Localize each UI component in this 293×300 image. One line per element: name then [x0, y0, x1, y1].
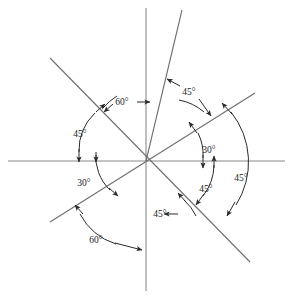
label-60-bottom: 60° — [89, 235, 103, 245]
annotation-60-bottom: 60° — [75, 205, 142, 250]
label-75-right: 45° — [234, 173, 248, 183]
ray-30-through-center — [50, 93, 255, 222]
annotation-60-upper: 60° — [103, 96, 150, 112]
annotation-75-right: 45° — [222, 103, 249, 216]
angle-diagram-svg: 60° 45° 30° 45° 45° 45° 30 — [0, 0, 293, 300]
figure-canvas: 60° 45° 30° 45° 45° 45° 30 — [0, 0, 293, 300]
annotation-45-upper-right: 45° — [167, 79, 211, 116]
annotation-45-lower-right: 45° — [196, 156, 214, 205]
ray-135-through-center — [50, 58, 250, 262]
label-45-left: 45° — [73, 129, 87, 139]
annotation-45-left: 45° — [73, 104, 105, 162]
label-30-right: 30° — [202, 145, 216, 155]
annotation-30-left: 30° — [77, 152, 118, 196]
label-30-left: 30° — [77, 178, 91, 188]
label-45-upper-right: 45° — [182, 87, 196, 97]
annotation-45-bottom: 45° — [153, 193, 196, 219]
label-45-lower-right: 45° — [199, 184, 213, 194]
label-60-upper: 60° — [115, 97, 129, 107]
axes-group — [8, 8, 285, 291]
ray-75-upper-right — [146, 10, 182, 161]
label-45-bottom: 45° — [153, 209, 167, 219]
